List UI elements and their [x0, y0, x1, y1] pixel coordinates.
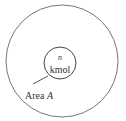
inner-label-kmol: kmol [50, 64, 71, 75]
area-label-var: A [46, 90, 54, 101]
area-label-prefix: Area [25, 90, 47, 101]
leader-line [33, 76, 48, 84]
outer-sphere [6, 5, 118, 117]
inner-label-n: n [58, 53, 62, 62]
diagram-canvas: n kmol Area A [0, 0, 126, 121]
area-label: Area A [25, 90, 54, 101]
